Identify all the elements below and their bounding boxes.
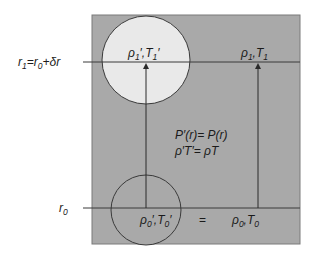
density-temperature-relation: ρ′T′= ρT bbox=[174, 144, 220, 158]
convection-parcel-diagram: r1=r0+δr r0 ρ1′,T1′ ρ1,T1 P′(r)= P(r) ρ′… bbox=[0, 0, 315, 258]
pressure-equality: P′(r)= P(r) bbox=[175, 128, 228, 142]
level-label-r1: r1=r0+δr bbox=[18, 55, 61, 71]
equals-sign: = bbox=[199, 213, 206, 227]
level-label-r0: r0 bbox=[59, 201, 68, 217]
